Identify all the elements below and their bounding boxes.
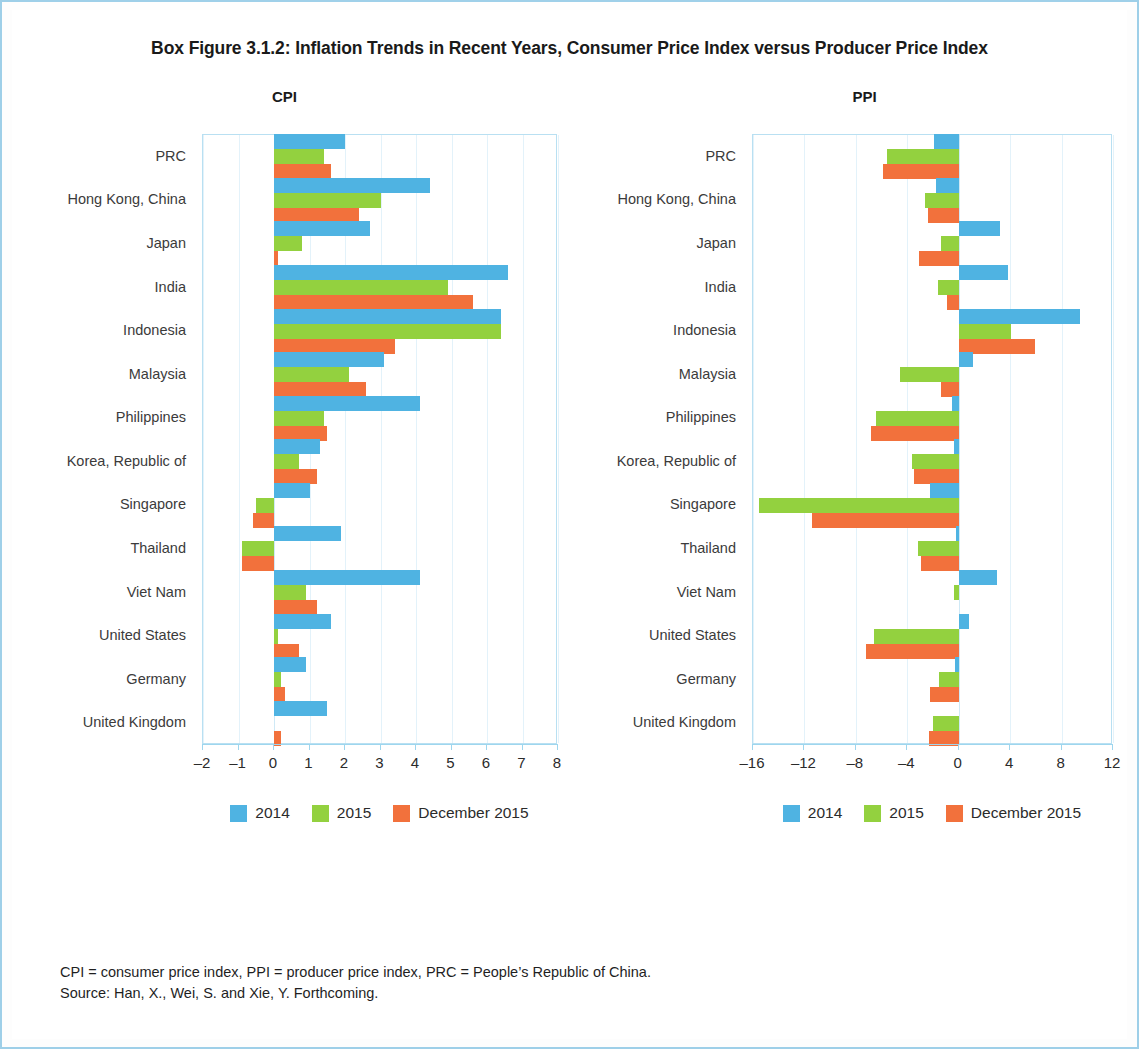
figure-notes: CPI = consumer price index, PPI = produc…: [60, 962, 651, 1006]
category-label: Thailand: [130, 540, 186, 556]
bar: [959, 221, 1000, 236]
plot-area-cpi: PRCHong Kong, ChinaJapanIndiaIndonesiaMa…: [30, 134, 575, 834]
legend-swatch-icon: [312, 805, 329, 822]
category-label: Singapore: [120, 496, 186, 512]
bar: [242, 556, 274, 571]
legend-swatch-icon: [864, 805, 881, 822]
category-label: India: [155, 279, 186, 295]
bar: [921, 556, 958, 571]
category-label: United Kingdom: [83, 714, 186, 730]
x-axis-line: [202, 744, 557, 745]
bar: [274, 454, 299, 469]
category-label: Japan: [696, 235, 736, 251]
x-tick-label: 5: [446, 754, 454, 771]
category-label: United States: [649, 627, 736, 643]
category-label: Indonesia: [673, 322, 736, 338]
x-tick-label: 1: [304, 754, 312, 771]
legend-item[interactable]: 2014: [783, 804, 842, 822]
bar: [936, 178, 959, 193]
x-tick-labels-ppi: –16–12–8–404812: [592, 744, 1137, 770]
plot-frame-cpi: [202, 134, 557, 744]
x-tick-label: –12: [791, 754, 816, 771]
bar: [941, 236, 959, 251]
bar: [812, 513, 959, 528]
gridline: [856, 135, 857, 743]
bar: [274, 324, 501, 339]
legend-item[interactable]: December 2015: [393, 804, 528, 822]
x-tick-label: –2: [194, 754, 211, 771]
legend-label: December 2015: [418, 804, 528, 822]
figure-page: Box Figure 3.1.2: Inflation Trends in Re…: [0, 0, 1139, 1049]
bar: [947, 295, 959, 310]
bar: [274, 672, 281, 687]
bar: [871, 426, 958, 441]
chart-panel-ppi: PPI PRCHong Kong, ChinaJapanIndiaIndones…: [592, 88, 1137, 888]
bar: [274, 265, 508, 280]
bar: [952, 396, 958, 411]
legend-swatch-icon: [783, 805, 800, 822]
x-tick-label: 8: [1056, 754, 1064, 771]
legend-item[interactable]: December 2015: [946, 804, 1081, 822]
bar: [928, 208, 959, 223]
bar: [956, 526, 959, 541]
gridline: [1113, 135, 1114, 743]
bar: [954, 439, 959, 454]
bar: [274, 614, 331, 629]
category-label: Indonesia: [123, 322, 186, 338]
bar: [959, 352, 973, 367]
category-label: Singapore: [670, 496, 736, 512]
category-label: Hong Kong, China: [68, 191, 187, 207]
gridline: [1010, 135, 1011, 743]
category-label: United Kingdom: [633, 714, 736, 730]
x-axis-line: [752, 744, 1112, 745]
category-label: Korea, Republic of: [617, 453, 736, 469]
category-labels-ppi: PRCHong Kong, ChinaJapanIndiaIndonesiaMa…: [592, 134, 744, 744]
legend-cpi: 20142015December 2015: [202, 802, 557, 824]
bar: [256, 498, 274, 513]
legend-item[interactable]: 2015: [312, 804, 371, 822]
legend-item[interactable]: 2015: [864, 804, 923, 822]
bar: [919, 251, 959, 266]
category-label: Germany: [676, 671, 736, 687]
plot-frame-ppi: [752, 134, 1112, 744]
category-label: PRC: [705, 148, 736, 164]
bar: [939, 672, 958, 687]
gridline: [753, 135, 754, 743]
bar: [930, 687, 958, 702]
x-tick-mark: [557, 744, 558, 750]
category-label: Germany: [126, 671, 186, 687]
bar: [954, 585, 959, 600]
legend-swatch-icon: [393, 805, 410, 822]
notes-source: Source: Han, X., Wei, S. and Xie, Y. For…: [60, 983, 651, 1005]
x-tick-label: 6: [482, 754, 490, 771]
x-tick-label: 2: [340, 754, 348, 771]
chart-panel-cpi: CPI PRCHong Kong, ChinaJapanIndiaIndones…: [30, 88, 575, 888]
bar: [274, 149, 324, 164]
legend-item[interactable]: 2014: [230, 804, 289, 822]
x-tick-label: –16: [739, 754, 764, 771]
x-tick-label: 0: [269, 754, 277, 771]
gridline: [1062, 135, 1063, 743]
category-label: Philippines: [666, 409, 736, 425]
bar: [274, 309, 501, 324]
x-tick-label: –8: [847, 754, 864, 771]
panel-title-cpi: CPI: [12, 88, 557, 105]
legend-label: 2015: [337, 804, 371, 822]
bar: [955, 657, 959, 672]
bar: [866, 644, 959, 659]
bar: [274, 134, 345, 149]
category-label: Viet Nam: [127, 584, 186, 600]
x-tick-label: –1: [229, 754, 246, 771]
bar: [918, 541, 959, 556]
bar: [274, 352, 384, 367]
bar: [874, 629, 959, 644]
gridline: [416, 135, 417, 743]
panel-title-ppi: PPI: [592, 88, 1137, 105]
bar: [912, 454, 958, 469]
x-tick-labels-cpi: –2–1012345678: [30, 744, 575, 770]
bar: [274, 236, 302, 251]
legend-label: December 2015: [971, 804, 1081, 822]
bar: [274, 178, 430, 193]
bar: [759, 498, 958, 513]
bar: [274, 483, 310, 498]
